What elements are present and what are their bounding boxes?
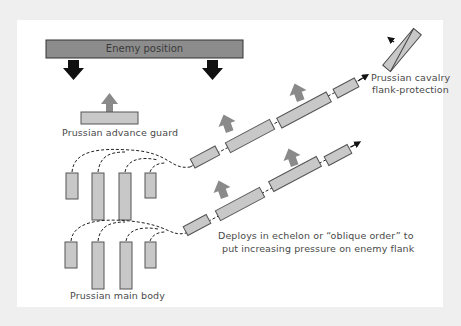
enemy-position-label: Enemy position — [46, 40, 243, 58]
advance-arrow-icon — [210, 178, 233, 201]
cavalry-arrow-icon — [390, 39, 394, 42]
main-body-upper-group — [66, 149, 190, 220]
cavalry-block — [383, 28, 422, 71]
advance-arrow-icon — [286, 81, 309, 104]
enemy-arrow-down-icon — [63, 60, 84, 80]
main-body-label: Prussian main body — [70, 290, 165, 302]
main-body-lower-group — [65, 220, 186, 289]
echelon-label-line1: Deploys in echelon or “oblique order” to — [218, 230, 414, 242]
enemy-arrow-down-icon — [202, 60, 223, 80]
echelon-label-line2: put increasing pressure on enemy flank — [222, 243, 414, 255]
advance-guard-block — [81, 112, 138, 124]
advance-guard-label: Prussian advance guard — [62, 127, 178, 139]
advance-arrow-up-icon — [101, 93, 118, 112]
cavalry-label-line1: Prussian cavalry — [371, 72, 450, 84]
advance-arrow-icon — [215, 112, 238, 135]
cavalry-label-line2: flank-protection — [372, 84, 449, 96]
